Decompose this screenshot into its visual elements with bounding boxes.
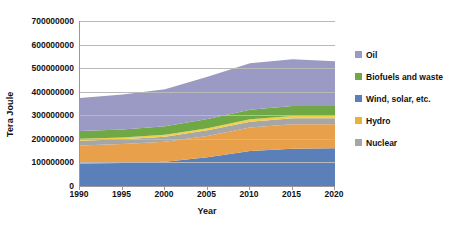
y-axis-tick-label: 500000000	[31, 64, 74, 73]
gridline	[80, 21, 335, 22]
legend-label: Oil	[366, 50, 377, 61]
x-axis-tickmark	[79, 186, 80, 190]
chart-legend: OilBiofuels and wasteWind, solar, etc.Hy…	[355, 50, 454, 160]
legend-color-swatch-icon	[355, 73, 362, 80]
legend-item[interactable]: Nuclear	[355, 138, 454, 149]
x-axis-tickmark	[292, 186, 293, 190]
x-axis-tick-label: 2000	[155, 190, 174, 199]
legend-label: Hydro	[366, 116, 391, 127]
y-axis-tick-label: 400000000	[31, 87, 74, 96]
legend-item[interactable]: Biofuels and waste	[355, 72, 454, 83]
x-axis-tickmark	[334, 186, 335, 190]
legend-item[interactable]: Hydro	[355, 116, 454, 127]
plot-area	[79, 21, 335, 186]
gridline	[80, 68, 335, 69]
legend-label: Nuclear	[366, 138, 397, 149]
x-axis-tickmark	[207, 186, 208, 190]
x-axis-tickmark	[164, 186, 165, 190]
y-axis-tick-label: 300000000	[31, 111, 74, 120]
x-axis-title: Year	[79, 206, 335, 216]
legend-color-swatch-icon	[355, 139, 362, 146]
x-axis-tickmark	[122, 186, 123, 190]
gridline	[80, 139, 335, 140]
x-axis-tick-labels: 1990199520002005201020152020	[0, 190, 454, 204]
x-axis-tick-label: 2010	[240, 190, 259, 199]
stacked-area-chart: Tera Joule 70000000060000000050000000040…	[0, 0, 454, 229]
legend-color-swatch-icon	[355, 51, 362, 58]
x-axis-tick-label: 2020	[325, 190, 344, 199]
y-axis-tick-label: 600000000	[31, 40, 74, 49]
x-axis-tick-label: 1990	[70, 190, 89, 199]
legend-color-swatch-icon	[355, 95, 362, 102]
y-axis-tick-label: 700000000	[31, 17, 74, 26]
gridline	[80, 92, 335, 93]
x-axis-tick-label: 2005	[197, 190, 216, 199]
legend-item[interactable]: Oil	[355, 50, 454, 61]
x-axis-tick-label: 1995	[112, 190, 131, 199]
gridline	[80, 45, 335, 46]
legend-color-swatch-icon	[355, 117, 362, 124]
legend-label: Biofuels and waste	[366, 72, 443, 83]
y-axis-tick-label: 200000000	[31, 135, 74, 144]
x-axis-tickmark	[249, 186, 250, 190]
gridline	[80, 115, 335, 116]
x-axis-tick-label: 2015	[282, 190, 301, 199]
y-axis-tick-label: 100000000	[31, 158, 74, 167]
gridline	[80, 162, 335, 163]
legend-item[interactable]: Wind, solar, etc.	[355, 94, 454, 105]
legend-label: Wind, solar, etc.	[366, 94, 431, 105]
